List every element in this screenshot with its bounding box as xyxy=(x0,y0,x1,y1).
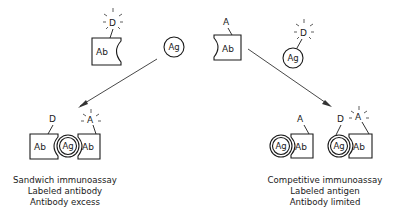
anchored-antibody: Ab A xyxy=(214,17,241,60)
free-antigen: Ag xyxy=(164,37,184,57)
sandwich-left-tag: D xyxy=(49,114,56,124)
competitive-1-ab-text: Ab xyxy=(295,142,307,152)
sandwich-complex: Ab Ag Ab D A xyxy=(30,109,101,159)
competitive-caption: Competitive immunoassay Labeled antigen … xyxy=(268,175,383,207)
labeled-antigen: Ag D xyxy=(283,19,314,68)
anchored-antibody-tag: A xyxy=(223,17,230,27)
labeled-antigen-text: Ag xyxy=(287,53,298,63)
competitive-caption-line-3: Antibody limited xyxy=(290,197,361,207)
competitive-2-ab-text: Ab xyxy=(353,142,365,152)
competitive-complex-2: Ag Ab D A xyxy=(328,106,372,158)
sandwich-caption-line-3: Antibody excess xyxy=(30,197,101,207)
sandwich-caption-line-2: Labeled antibody xyxy=(28,186,102,196)
competitive-2-ag-tag: D xyxy=(337,114,344,124)
labeled-antibody-tag: D xyxy=(109,18,116,28)
competitive-1-tag: A xyxy=(297,114,304,124)
sandwich-right-tag: A xyxy=(87,115,94,125)
sandwich-left-ab-text: Ab xyxy=(34,142,46,152)
labeled-antibody-text: Ab xyxy=(96,47,108,57)
sandwich-ag-text: Ag xyxy=(62,141,73,151)
immunoassay-diagram: Ab D Ag Ab A Ag xyxy=(0,0,398,222)
competitive-2-ab-tag: A xyxy=(355,112,362,122)
sandwich-right-ab-text: Ab xyxy=(82,142,94,152)
competitive-caption-line-2: Labeled antigen xyxy=(290,186,359,196)
sandwich-caption-line-1: Sandwich immunoassay xyxy=(13,175,117,185)
labeled-antibody: Ab D xyxy=(92,8,123,65)
labeled-antigen-tag: D xyxy=(300,28,307,38)
arrow-to-sandwich xyxy=(78,59,157,108)
competitive-complex-1: Ag Ab A xyxy=(270,114,313,158)
anchored-antibody-text: Ab xyxy=(222,44,234,54)
competitive-1-ag-text: Ag xyxy=(275,141,286,151)
competitive-caption-line-1: Competitive immunoassay xyxy=(268,175,383,185)
free-antigen-text: Ag xyxy=(168,42,179,52)
competitive-2-ag-text: Ag xyxy=(333,141,344,151)
sandwich-caption: Sandwich immunoassay Labeled antibody An… xyxy=(13,175,117,207)
